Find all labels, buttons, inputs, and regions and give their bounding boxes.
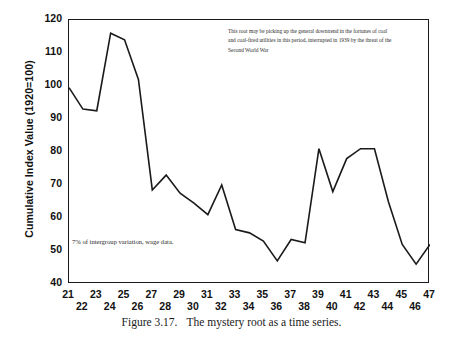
x-tick-label: 23 (85, 288, 107, 300)
x-tick-label: 33 (224, 288, 246, 300)
y-tick-label: 120 (30, 12, 62, 24)
figure-caption-text: The mystery root as a time series. (187, 316, 342, 328)
x-tick-label: 35 (251, 288, 273, 300)
y-tick-label: 60 (30, 210, 62, 222)
x-tick-label: 41 (335, 288, 357, 300)
x-tick-label: 38 (293, 300, 315, 312)
x-tick-label: 36 (265, 300, 287, 312)
y-tick-label: 70 (30, 177, 62, 189)
x-tick-label: 40 (321, 300, 343, 312)
x-tick-label: 30 (182, 300, 204, 312)
y-tick-label: 110 (30, 45, 62, 57)
x-tick-label: 45 (390, 288, 412, 300)
x-tick-label: 34 (238, 300, 260, 312)
figure-caption-label: Figure 3.17. (122, 316, 178, 328)
figure-container: Cumulative Index Value (1920=100) 405060… (0, 0, 463, 341)
x-tick-label: 42 (349, 300, 371, 312)
x-tick-label: 46 (404, 300, 426, 312)
x-tick-label: 44 (376, 300, 398, 312)
x-tick-label: 32 (210, 300, 232, 312)
y-tick-label: 40 (30, 276, 62, 288)
x-tick-label: 39 (307, 288, 329, 300)
x-tick-label: 28 (154, 300, 176, 312)
annotation-downtrend-note: This root may be picking up the general … (228, 27, 393, 55)
x-tick-label: 43 (362, 288, 384, 300)
x-tick-label: 27 (140, 288, 162, 300)
x-tick-label: 26 (126, 300, 148, 312)
x-tick-label: 47 (418, 288, 440, 300)
x-tick-label: 37 (279, 288, 301, 300)
figure-caption: Figure 3.17.The mystery root as a time s… (0, 316, 463, 328)
annotation-intergroup-variation-note: 7% of intergroup variation, wage data. (72, 236, 192, 248)
x-tick-label: 25 (113, 288, 135, 300)
x-tick-label: 22 (71, 300, 93, 312)
y-tick-label: 90 (30, 111, 62, 123)
x-tick-label: 24 (99, 300, 121, 312)
x-tick-label: 21 (57, 288, 79, 300)
y-tick-label: 50 (30, 243, 62, 255)
x-tick-label: 31 (196, 288, 218, 300)
y-tick-label: 80 (30, 144, 62, 156)
x-tick-label: 29 (168, 288, 190, 300)
y-tick-label: 100 (30, 78, 62, 90)
